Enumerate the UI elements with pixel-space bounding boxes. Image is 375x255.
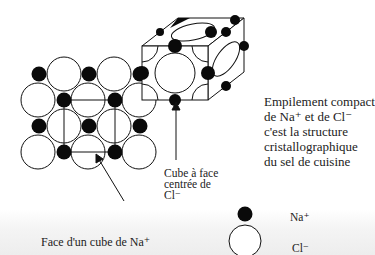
title-line: du sel de cuisine <box>264 154 375 169</box>
legend-cl-label: Cl⁻ <box>292 241 309 255</box>
title-line: cristallographique <box>264 139 375 154</box>
title-line: c'est la structure <box>264 124 375 139</box>
legend-na-label: Na⁺ <box>290 210 309 224</box>
cube-label-line: Cl⁻ <box>164 190 218 201</box>
title-line: Empilement compact <box>264 94 375 109</box>
structure-description: Empilement compact de Na⁺ et de Cl⁻ c'es… <box>264 94 375 169</box>
cube-pointer-arrow <box>172 102 180 160</box>
title-line: de Na⁺ et de Cl⁻ <box>264 109 375 124</box>
face-label: Face d'un cube de Na⁺ <box>41 235 150 249</box>
legend-cl-icon <box>229 225 261 255</box>
cube-label: Cube à face centrée de Cl⁻ <box>164 168 218 201</box>
face-pointer-arrow <box>96 154 124 201</box>
legend-na-icon <box>238 207 253 222</box>
